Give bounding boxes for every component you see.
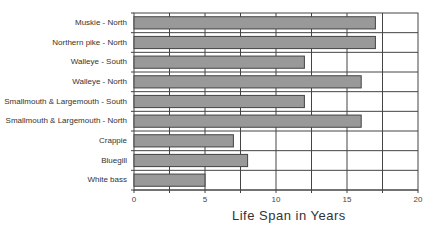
bar — [134, 154, 248, 166]
bar — [134, 76, 361, 88]
category-label: Smallmouth & Largemouth - North — [6, 116, 127, 125]
category-label: White bass — [87, 175, 127, 184]
category-label: Northern pike - North — [52, 38, 127, 47]
category-label: Crappie — [99, 136, 127, 145]
x-tick-label: 5 — [203, 195, 207, 204]
bar — [134, 95, 304, 107]
bar-chart: Muskie - NorthNorthern pike - NorthWalle… — [0, 0, 437, 231]
x-tick-label: 0 — [132, 195, 136, 204]
x-tick-label: 15 — [343, 195, 352, 204]
x-tick-label: 10 — [272, 195, 281, 204]
category-label: Smallmouth & Largemouth - South — [4, 97, 127, 106]
x-axis-label: Life Span in Years — [232, 208, 346, 223]
bar — [134, 135, 233, 147]
category-label: Walleye - South — [71, 57, 127, 66]
bar — [134, 174, 205, 186]
category-label: Muskie - North — [75, 18, 127, 27]
x-tick-label: 20 — [414, 195, 423, 204]
bar — [134, 56, 304, 68]
bar — [134, 17, 375, 29]
bar — [134, 36, 375, 48]
bar — [134, 115, 361, 127]
category-label: Walleye - North — [72, 77, 127, 86]
category-label: Bluegill — [101, 156, 127, 165]
